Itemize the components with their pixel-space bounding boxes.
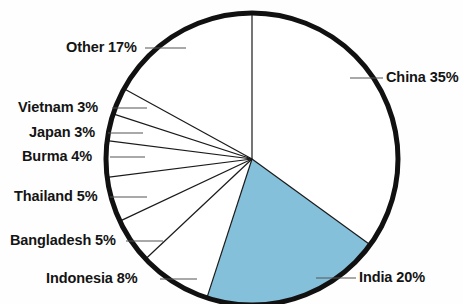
pie-chart-figure: China 35%India 20%Indonesia 8%Bangladesh… <box>0 0 463 304</box>
china-slice-label: China 35% <box>386 70 458 85</box>
indonesia-slice-label: Indonesia 8% <box>46 271 137 286</box>
burma-slice-label: Burma 4% <box>22 149 92 164</box>
vietnam-slice-label: Vietnam 3% <box>18 100 98 115</box>
bangladesh-slice-label: Bangladesh 5% <box>10 233 116 248</box>
other-slice-label: Other 17% <box>66 40 137 55</box>
india-slice-label: India 20% <box>359 270 425 285</box>
japan-slice-label: Japan 3% <box>29 125 95 140</box>
thailand-slice-label: Thailand 5% <box>14 189 98 204</box>
